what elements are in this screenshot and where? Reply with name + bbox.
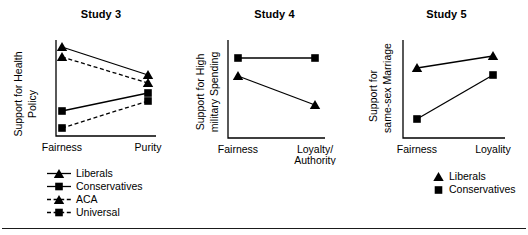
x-tick-label-fairness-study3: Fairness: [42, 141, 82, 153]
series-line-liberals-study4: [238, 76, 315, 105]
plot-area-study3: Support for Health Policy Fairness: [0, 0, 180, 160]
data-point-conservatives-loyalty-study4: [311, 54, 319, 62]
series-line-conservatives-study3: [62, 93, 148, 111]
legend-label-liberals-study3: Liberals: [76, 167, 113, 180]
data-point-conservatives-loyality-study5: [489, 71, 497, 79]
legend-label-aca-study3: ACA: [76, 193, 98, 206]
legend-label-conservatives-study3: Conservatives: [76, 180, 143, 193]
data-point-liberals-loyality-study5: [488, 51, 498, 60]
data-point-universal-purity-study3: [144, 97, 152, 105]
data-point-universal-fairness-study3: [58, 124, 66, 132]
y-axis-label-line1-study4: Support for High: [194, 54, 206, 131]
series-line-liberals-study5: [417, 56, 493, 68]
data-point-liberals-purity-study3: [143, 70, 153, 79]
legend-item-aca-study3: ACA: [46, 193, 143, 206]
chart-panel-study4: Study 4 Support for High military Spendi…: [180, 0, 355, 215]
x-tick-label-fairness-study5: Fairness: [397, 143, 437, 155]
axis-lines-study5: [403, 40, 505, 138]
data-point-conservatives-purity-study3: [144, 89, 152, 97]
data-point-conservatives-fairness-study4: [234, 54, 242, 62]
plot-area-study5: Support for same-sex Marriage Fairness L…: [355, 0, 528, 160]
y-axis-label-line2-study4: military Spending: [208, 52, 220, 133]
bottom-divider-rule: [2, 228, 526, 229]
x-tick-label-loyalty-line2-study4: Authority: [294, 154, 336, 165]
y-axis-label-line2-study5: same-sex Marriage: [381, 43, 393, 133]
legend-key-square-solid-icon: [46, 180, 72, 193]
data-point-conservatives-fairness-study3: [58, 107, 66, 115]
data-point-liberals-fairness-study3: [57, 42, 67, 51]
y-axis-label-line1-study3: Support for Health: [12, 51, 24, 136]
series-line-conservatives-study5: [417, 75, 493, 119]
axis-lines-study3: [56, 40, 156, 136]
legend-key-triangle-solid-icon: [46, 167, 72, 180]
chart-panel-study3: Study 3 Support for Health Policy: [0, 0, 180, 215]
x-tick-label-fairness-study4: Fairness: [218, 143, 258, 155]
chart-panel-study5: Study 5 Support for same-sex Marriage Fa…: [355, 0, 528, 215]
x-tick-label-loyality-study5: Loyality: [475, 143, 511, 155]
legend-study3: Liberals Conservatives ACA: [46, 167, 143, 219]
axis-lines-study4: [228, 40, 325, 138]
y-axis-label-line1-study5: Support for: [367, 70, 379, 122]
data-point-liberals-loyalty-study4: [310, 100, 320, 109]
legend-label-universal-study3: Universal: [76, 206, 120, 219]
figure-panel-group: Study 3 Support for Health Policy: [0, 0, 528, 235]
data-point-aca-fairness-study3: [57, 52, 67, 61]
data-point-conservatives-fairness-study5: [413, 115, 421, 123]
legend-key-triangle-dashed-icon: [46, 193, 72, 206]
legend-item-conservatives-study3: Conservatives: [46, 180, 143, 193]
x-tick-label-purity-study3: Purity: [135, 141, 163, 153]
series-line-universal-study3: [62, 101, 148, 128]
legend-item-universal-study3: Universal: [46, 206, 143, 219]
data-point-liberals-fairness-study4: [233, 71, 243, 80]
plot-area-study4: Support for High military Spending Fairn…: [180, 0, 355, 165]
y-axis-label-line2-study3: Policy: [26, 89, 38, 118]
legend-item-liberals-study3: Liberals: [46, 167, 143, 180]
legend-key-square-dashed-icon: [46, 206, 72, 219]
